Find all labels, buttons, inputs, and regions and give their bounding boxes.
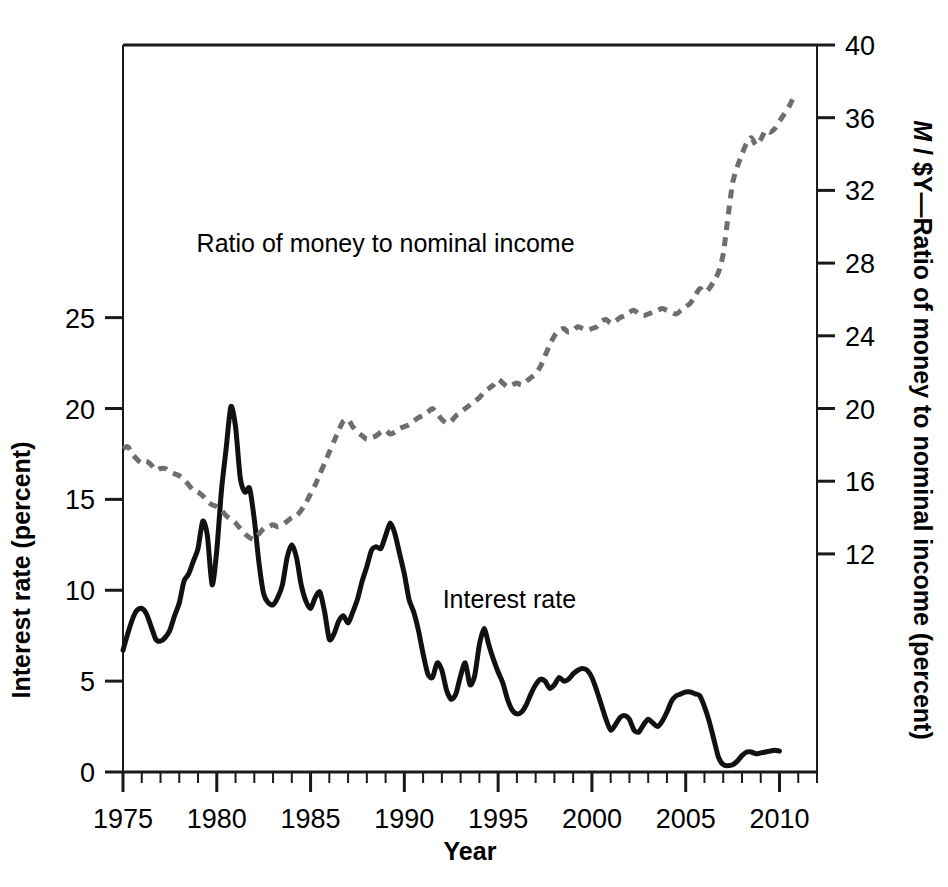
left-y-tick-label: 10 xyxy=(65,576,95,606)
right-y-tick-label: 36 xyxy=(845,104,875,134)
right-axis-title: M / $Y—Ratio of money to nominal income … xyxy=(909,120,937,740)
chart-svg: 19751980198519901995200020052010 0510152… xyxy=(0,0,948,887)
x-tick-label: 2000 xyxy=(562,804,622,834)
right-axis-title-m-symbol: M xyxy=(909,120,937,142)
right-y-tick-label: 28 xyxy=(845,249,875,279)
x-tick-label: 1995 xyxy=(468,804,528,834)
right-y-tick-label: 20 xyxy=(845,395,875,425)
right-y-tick-label: 32 xyxy=(845,176,875,206)
right-y-tick-label: 40 xyxy=(845,31,875,61)
annotation-money-ratio: Ratio of money to nominal income xyxy=(197,229,575,257)
left-y-tick-label: 15 xyxy=(65,485,95,515)
left-y-tick-label: 25 xyxy=(65,304,95,334)
right-y-tick-label: 24 xyxy=(845,322,875,352)
annotation-interest-rate: Interest rate xyxy=(443,585,576,613)
right-axis-title-rest: / $Y—Ratio of money to nominal income (p… xyxy=(909,141,937,740)
left-axis-title: Interest rate (percent) xyxy=(7,441,35,698)
left-y-tick-label: 5 xyxy=(80,667,95,697)
left-y-tick-label: 20 xyxy=(65,395,95,425)
right-y-tick-label: 16 xyxy=(845,467,875,497)
x-tick-label: 1985 xyxy=(281,804,341,834)
x-axis-title: Year xyxy=(444,837,497,865)
chart-background xyxy=(0,0,948,887)
x-tick-label: 1980 xyxy=(187,804,247,834)
chart-figure: 19751980198519901995200020052010 0510152… xyxy=(0,0,948,887)
x-tick-label: 2005 xyxy=(656,804,716,834)
right-y-tick-label: 12 xyxy=(845,540,875,570)
x-tick-label: 2010 xyxy=(749,804,809,834)
x-tick-label: 1975 xyxy=(93,804,153,834)
x-tick-label: 1990 xyxy=(374,804,434,834)
left-y-tick-label: 0 xyxy=(80,758,95,788)
